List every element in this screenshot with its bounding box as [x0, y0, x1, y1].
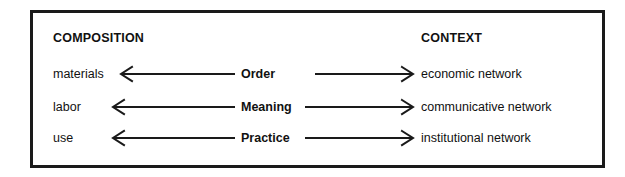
- source-label: use: [53, 127, 73, 149]
- diagram-row: labor Meaning communicative network: [33, 96, 602, 118]
- arrow-left-icon: [119, 63, 235, 85]
- column-heading-context: CONTEXT: [421, 31, 482, 45]
- relation-label: Order: [241, 63, 275, 85]
- target-label: communicative network: [421, 96, 552, 118]
- diagram-row: materials Order economic network: [33, 63, 602, 85]
- diagram-row: use Practice institutional network: [33, 127, 602, 149]
- relation-label: Meaning: [241, 96, 292, 118]
- diagram-panel: COMPOSITION CONTEXT materials Order econ…: [30, 10, 605, 168]
- target-label: economic network: [421, 63, 522, 85]
- arrow-left-icon: [111, 127, 235, 149]
- arrow-right-icon: [305, 96, 415, 118]
- source-label: materials: [53, 63, 104, 85]
- target-label: institutional network: [421, 127, 531, 149]
- column-heading-composition: COMPOSITION: [53, 31, 144, 45]
- source-label: labor: [53, 96, 81, 118]
- arrow-right-icon: [315, 63, 415, 85]
- relation-label: Practice: [241, 127, 290, 149]
- arrow-left-icon: [111, 96, 235, 118]
- arrow-right-icon: [305, 127, 415, 149]
